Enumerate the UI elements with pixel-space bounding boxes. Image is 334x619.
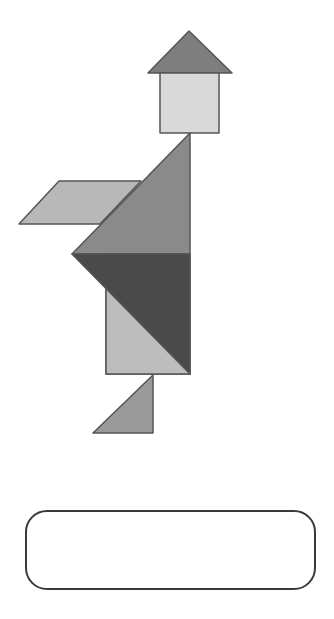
tangram-figure [0,0,334,460]
square [160,73,219,133]
roof-triangle [148,31,232,73]
small-triangle-foot [93,375,153,433]
answer-box[interactable] [25,510,316,590]
